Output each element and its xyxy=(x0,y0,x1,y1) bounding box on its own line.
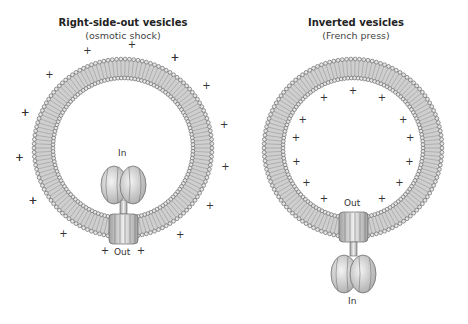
proton-charge-outside: + xyxy=(128,39,136,50)
proton-charge-inside: + xyxy=(378,92,386,103)
right-out-label: Out xyxy=(344,198,360,208)
proton-charge-inside: + xyxy=(406,132,414,143)
proton-charge-inside: + xyxy=(320,193,328,204)
proton-charge-outside: + xyxy=(101,245,109,256)
proton-charge-outside: + xyxy=(206,200,214,211)
proton-charge-inside: + xyxy=(320,92,328,103)
proton-charge-outside: + xyxy=(21,107,29,118)
left-in-label: In xyxy=(118,148,126,158)
proton-charge-inside: + xyxy=(349,85,357,96)
proton-charge-inside: + xyxy=(399,114,407,125)
proton-charge-outside: + xyxy=(220,119,228,130)
proton-charge-outside: + xyxy=(176,229,184,240)
proton-charge-outside: + xyxy=(137,245,145,256)
proton-charge-outside: + xyxy=(45,69,53,80)
right-in-label: In xyxy=(348,296,356,306)
proton-charge-outside: + xyxy=(221,161,229,172)
vesicle-diagram: ++++++++++++++++++++++++++++++++ xyxy=(0,0,468,324)
proton-charge-inside: + xyxy=(299,114,307,125)
proton-charge-inside: + xyxy=(292,132,300,143)
proton-charge-inside: + xyxy=(302,177,310,188)
proton-charge-outside: + xyxy=(202,80,210,91)
proton-charge-inside: + xyxy=(378,193,386,204)
proton-charge-inside: + xyxy=(395,177,403,188)
proton-charge-inside: + xyxy=(405,156,413,167)
proton-charge-outside: + xyxy=(83,45,91,56)
proton-charge-outside: + xyxy=(15,152,23,163)
proton-charge-outside: + xyxy=(59,228,67,239)
proton-charge-outside: + xyxy=(171,52,179,63)
left-out-label: Out xyxy=(114,247,130,257)
proton-charge-inside: + xyxy=(292,156,300,167)
proton-charge-outside: + xyxy=(29,195,37,206)
